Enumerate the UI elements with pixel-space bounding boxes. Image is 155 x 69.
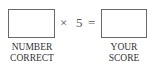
- your-score-label-line2: SCORE: [94, 53, 154, 64]
- equals-symbol: =: [88, 15, 95, 31]
- number-correct-label-line2: CORRECT: [2, 53, 62, 64]
- your-score-box[interactable]: [101, 9, 147, 38]
- number-correct-label-line1: NUMBER: [2, 42, 62, 53]
- number-correct-label: NUMBER CORRECT: [2, 42, 62, 64]
- times-symbol: ×: [60, 15, 67, 31]
- number-correct-box[interactable]: [8, 9, 55, 38]
- multiplier-value: 5: [76, 15, 83, 31]
- your-score-label-line1: YOUR: [94, 42, 154, 53]
- your-score-label: YOUR SCORE: [94, 42, 154, 64]
